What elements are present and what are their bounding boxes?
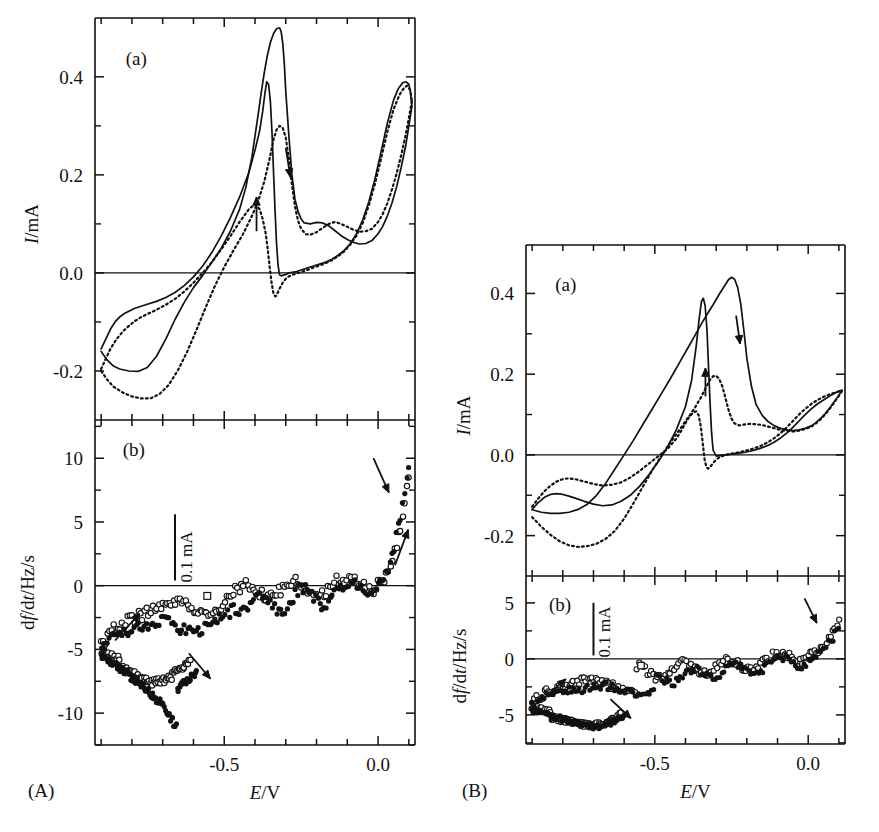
panelB-a-series-1-forward [532,391,842,506]
panelA-b-filled-upper [196,625,201,630]
panelA-b-filled-upper [329,593,334,598]
panelA-b-scalebar-label: 0.1 mA [177,531,196,583]
panelA-b-filled-upper [303,582,308,587]
panelA-a-frame [95,18,415,420]
panelB-b-filled-upper [760,670,765,675]
panelA-b-filled-upper [179,628,184,633]
panelA-b-filled-upper [231,602,236,607]
panelB-xaxis-title: E/V [679,781,711,802]
panelB-b-square-marker [638,662,644,668]
figure-root: -0.20.00.20.4(a)I/mA-10-505100.1 mA(b)-0… [0,0,879,832]
panelB-b-open-upper [667,671,672,676]
panelA-b-open-upper [293,574,298,579]
panelB-b-xticklabel: -0.5 [640,753,670,774]
panelB-b-arrow-downright-head [810,614,817,623]
panelA-b-filled-upper [385,570,390,575]
panelB-b-filled-upper [733,660,738,665]
panelB-b-filled-upper [780,658,785,663]
panelA-b-filled-upper [144,621,149,626]
panelB-b-open-upper [837,617,842,622]
panelA-a-yaxis-title: I/mA [21,204,42,245]
panelA-b-filled-upper [251,597,256,602]
panelA-b-square-marker [204,593,211,600]
panelA-b-y-ticklabel: 5 [74,512,84,533]
panelA-b-y-ticklabel: -5 [67,639,83,660]
panelB-b-scalebar-label: 0.1 mA [595,606,614,658]
panelB-b-y-ticklabel: 5 [505,593,515,614]
panelB-b-filled-upper [576,686,581,691]
panelA-b-open-upper [144,605,149,610]
panelA-b-filled-lower [188,677,193,682]
panelA-b-filled-upper [291,600,296,605]
panelB-b-filled-upper [667,678,672,683]
panelA-b-y-ticklabel: 0 [74,576,84,597]
figure-canvas: -0.20.00.20.4(a)I/mA-10-505100.1 mA(b)-0… [0,0,879,832]
panelA-b-filled-upper [237,612,242,617]
panelA-b-y-ticklabel: 10 [64,448,83,469]
panelA-b-filled-upper [268,597,273,602]
panelB-b-filled-upper [717,675,722,680]
panelA-subpanel-a-label: (a) [126,48,147,70]
panelA-b-filled-upper [278,607,283,612]
panelB-b-filled-upper [697,666,702,671]
panelA-b-open-upper [222,600,227,605]
panelB-b-filled-upper [529,700,534,705]
panelB-b-filled-upper [721,669,726,674]
panelB-b-xticklabel: 0.0 [796,753,820,774]
panelA-b-y-ticklabel: -10 [58,703,83,724]
panelA-b-filled-upper [406,465,411,470]
panelA-b-filled-upper [358,583,363,588]
panelB-a-yaxis-title: I/mA [453,395,474,436]
panelA-b-filled-upper [381,577,386,582]
panelA-b-filled-lower [141,681,146,686]
panelB-b-filled-upper [692,669,697,674]
panelA-b-open-upper [111,622,116,627]
panelA-b-filled-lower [174,721,179,726]
panelA-b-open-upper [243,578,248,583]
panelB-b-filled-upper [738,662,743,667]
panelB-a-y-ticklabel: 0.2 [490,364,514,385]
panelA-b-open-upper [237,590,242,595]
panelA-b-filled-upper [318,601,323,606]
panelA-b-filled-upper [402,491,407,496]
panelA-b-arrow-downright-head [382,484,389,493]
panelA-b-open-upper [159,606,164,611]
panelA-b-filled-upper [311,599,316,604]
figure-part-label-A: (A) [28,780,54,802]
panelA-b-filled-lower [194,668,199,673]
panelA-b-filled-upper [293,587,298,592]
panelA-b-xticklabel: 0.0 [366,754,390,775]
panelA-b-filled-upper [129,629,134,634]
panelB-b-y-ticklabel: -5 [498,705,514,726]
panelA-b-filled-upper [388,560,393,565]
panelB-b-filled-upper [592,681,597,686]
panelA-b-open-upper [231,592,236,597]
panelA-b-filled-upper [105,641,110,646]
panelA-b-open-upper [334,573,339,578]
panelB-b-filled-upper [585,682,590,687]
panelB-b-filled-upper [836,626,841,631]
panelB-b-filled-upper [657,673,662,678]
panelA-b-filled-upper [338,582,343,587]
panelA-b-filled-lower [146,686,151,691]
panelA-b-filled-upper [227,615,232,620]
panelB-subpanel-a-label: (a) [555,274,576,296]
panelB-a-y-ticklabel: 0.0 [490,445,514,466]
panelB-a-arrow-down-head [735,335,742,344]
panelA-b-open-upper [367,584,372,589]
panelA-b-open-upper [278,593,283,598]
panelA-b-open-upper [323,594,328,599]
panelA-b-filled-upper [183,631,188,636]
panelA-b-filled-upper [222,612,227,617]
panelB-b-y-ticklabel: 0 [505,649,515,670]
panelA-b-filled-upper [257,590,262,595]
panelA-b-open-upper [240,583,245,588]
panelA-b-filled-upper [285,606,290,611]
panelA-subpanel-b-label: (b) [123,439,145,461]
panelA-b-filled-upper [373,587,378,592]
panelA-b-filled-upper [225,607,230,612]
panelA-b-filled-upper [300,590,305,595]
panelA-b-open-upper [173,602,178,607]
panelA-b-xticklabel: -0.5 [209,754,239,775]
panelA-b-filled-upper [405,475,410,480]
